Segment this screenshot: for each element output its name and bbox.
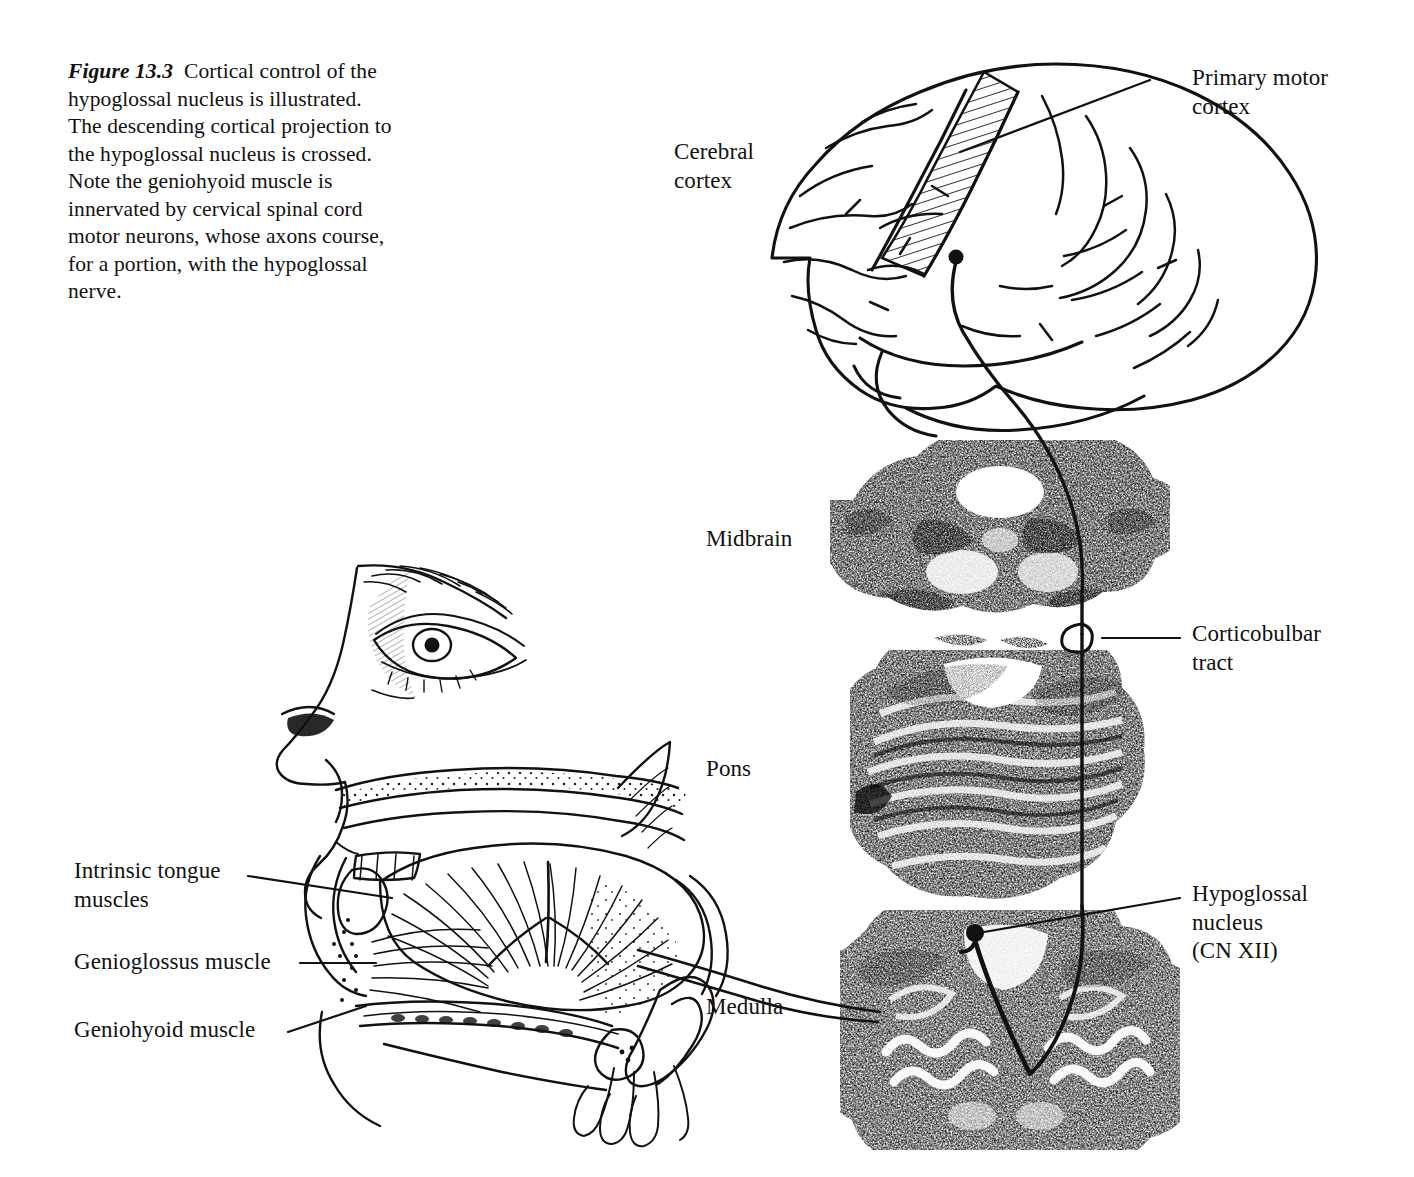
midbrain-section: [830, 440, 1170, 648]
periorbital-shading: [368, 568, 416, 698]
mandible-lower-border: [384, 1044, 606, 1090]
primary-motor-cortex-hatching: [882, 72, 1018, 276]
face-profile: [277, 568, 357, 918]
label-pons: Pons: [706, 755, 751, 784]
label-cerebral-cortex: Cerebral cortex: [674, 138, 754, 195]
pupil: [425, 638, 440, 653]
geniohyoid-lower: [360, 1023, 618, 1048]
upper-motor-neuron-soma: [949, 250, 964, 265]
tongue-stipple: [588, 880, 677, 1018]
superior-temporal-sulcus: [906, 396, 1144, 431]
leader-geniohyoid-muscle: [288, 1006, 366, 1032]
label-intrinsic-tongue-muscles: Intrinsic tongue muscles: [74, 857, 221, 914]
hyoid-bone: [595, 1029, 643, 1080]
sagittal-head-drawing: [277, 565, 728, 1146]
label-hypoglossal-nucleus: Hypoglossal nucleus (CN XII): [1192, 880, 1308, 966]
pons-section: [850, 650, 1170, 900]
genioglossus-fibres: [370, 929, 492, 1012]
label-medulla: Medulla: [706, 993, 783, 1022]
hypoglossal-nucleus-soma: [966, 924, 984, 942]
label-geniohyoid-muscle: Geniohyoid muscle: [74, 1016, 255, 1045]
symphysis-line: [333, 858, 356, 972]
corticobulbar-tract-marker: [1062, 624, 1093, 652]
label-midbrain: Midbrain: [706, 525, 792, 554]
chin-outline: [320, 1012, 380, 1126]
infrahyoid-fibres: [574, 1066, 689, 1146]
figure-13-3: Figure 13.3Cortical control of the hypog…: [0, 0, 1414, 1177]
label-primary-motor-cortex: Primary motor cortex: [1192, 64, 1328, 121]
label-corticobulbar-tract: Corticobulbar tract: [1192, 620, 1321, 677]
lingual-septum: [546, 862, 549, 962]
palate-mucosa: [344, 811, 684, 840]
label-genioglossus-muscle: Genioglossus muscle: [74, 948, 271, 977]
